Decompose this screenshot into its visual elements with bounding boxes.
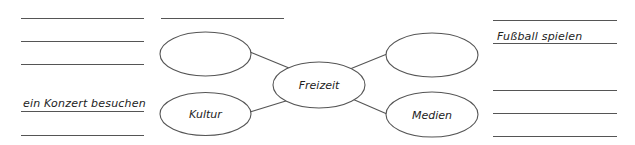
connector-bottom-right: [350, 98, 387, 114]
mindmap-diagram: Kultur Freizeit Medien: [0, 0, 635, 145]
connector-top-right: [350, 54, 387, 69]
node-bottom-left-label: Kultur: [189, 108, 223, 121]
node-top-left[interactable]: [160, 32, 251, 76]
connector-top-left: [250, 52, 289, 68]
node-center-label: Freizeit: [299, 79, 340, 92]
node-top-right[interactable]: [386, 33, 478, 77]
node-bottom-right-label: Medien: [412, 109, 452, 122]
connector-bottom-left: [250, 100, 289, 112]
